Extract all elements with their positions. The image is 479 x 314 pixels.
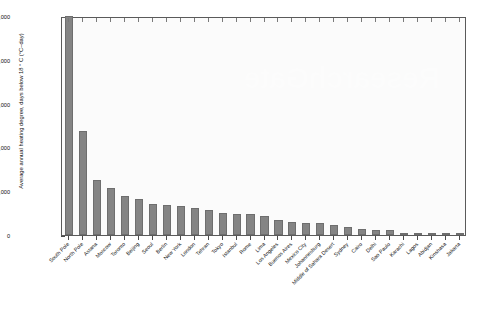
x-tick-mark-top bbox=[277, 18, 278, 22]
x-tick-mark bbox=[82, 236, 83, 240]
bar bbox=[274, 220, 282, 235]
bar bbox=[163, 205, 171, 235]
x-tick-mark bbox=[68, 236, 69, 240]
x-tick-mark-top bbox=[250, 18, 251, 22]
bar bbox=[260, 216, 268, 235]
x-tick-mark-top bbox=[138, 18, 139, 22]
x-tick-label: Jakarta bbox=[445, 241, 462, 258]
x-tick-mark-top bbox=[236, 18, 237, 22]
x-tick-mark-top bbox=[375, 18, 376, 22]
x-tick-mark bbox=[361, 236, 362, 240]
x-tick-mark bbox=[403, 236, 404, 240]
bar bbox=[330, 225, 338, 235]
x-tick-mark bbox=[291, 236, 292, 240]
x-tick-mark bbox=[375, 236, 376, 240]
bar bbox=[344, 227, 352, 235]
plot-area: ResearchGate bbox=[61, 17, 466, 236]
x-tick-label: Karachi bbox=[388, 241, 405, 258]
bar bbox=[316, 223, 324, 235]
y-tick-label: 5,000 bbox=[0, 189, 10, 195]
x-tick-mark-top bbox=[194, 18, 195, 22]
bar bbox=[191, 208, 199, 235]
x-tick-label: Rome bbox=[238, 241, 252, 255]
bar bbox=[65, 16, 73, 235]
bar-series bbox=[62, 18, 465, 235]
bar bbox=[442, 233, 450, 235]
x-tick-label: Seoul bbox=[140, 241, 154, 255]
x-tick-mark-top bbox=[124, 18, 125, 22]
x-tick-mark-top bbox=[264, 18, 265, 22]
y-tick-label: 0 bbox=[0, 233, 10, 239]
bar bbox=[205, 210, 213, 235]
x-tick-mark bbox=[194, 236, 195, 240]
x-tick-mark-top bbox=[459, 18, 460, 22]
x-tick-mark bbox=[305, 236, 306, 240]
y-tick-mark bbox=[61, 236, 65, 237]
chart-figure: Average annual heating degree, days belo… bbox=[0, 0, 479, 314]
x-tick-mark-top bbox=[319, 18, 320, 22]
bar bbox=[79, 131, 87, 235]
bar bbox=[177, 206, 185, 235]
y-axis-label: Average annual heating degree, days belo… bbox=[18, 0, 24, 226]
x-tick-mark-top bbox=[361, 18, 362, 22]
x-tick-mark-top bbox=[68, 18, 69, 22]
x-tick-label: Sydney bbox=[333, 241, 350, 258]
x-tick-mark bbox=[250, 236, 251, 240]
x-tick-mark-top bbox=[152, 18, 153, 22]
x-tick-mark-top bbox=[96, 18, 97, 22]
bar bbox=[428, 233, 436, 235]
x-tick-mark bbox=[222, 236, 223, 240]
x-tick-mark bbox=[138, 236, 139, 240]
x-tick-mark-top bbox=[431, 18, 432, 22]
bar bbox=[358, 229, 366, 235]
x-tick-label: Beijing bbox=[125, 241, 140, 256]
x-tick-mark-top bbox=[347, 18, 348, 22]
x-tick-mark-top bbox=[445, 18, 446, 22]
y-tick-label: 10,000 bbox=[0, 145, 10, 151]
bar bbox=[414, 233, 422, 235]
x-tick-mark bbox=[124, 236, 125, 240]
x-tick-mark-top bbox=[403, 18, 404, 22]
x-tick-label: London bbox=[179, 241, 196, 258]
x-tick-mark bbox=[389, 236, 390, 240]
x-tick-label: Toronto bbox=[109, 241, 126, 258]
x-tick-mark bbox=[277, 236, 278, 240]
bar bbox=[386, 230, 394, 235]
bar bbox=[135, 199, 143, 235]
x-tick-mark bbox=[445, 236, 446, 240]
bar bbox=[121, 196, 129, 235]
bar bbox=[219, 213, 227, 235]
x-tick-mark-top bbox=[166, 18, 167, 22]
x-tick-mark bbox=[333, 236, 334, 240]
x-tick-mark bbox=[180, 236, 181, 240]
x-tick-mark-top bbox=[333, 18, 334, 22]
x-tick-mark-top bbox=[417, 18, 418, 22]
x-tick-mark bbox=[347, 236, 348, 240]
x-tick-mark-top bbox=[180, 18, 181, 22]
x-tick-mark bbox=[431, 236, 432, 240]
x-tick-mark-top bbox=[222, 18, 223, 22]
y-tick-label: 15,000 bbox=[0, 102, 10, 108]
x-tick-label: Tehran bbox=[194, 241, 210, 257]
y-tick-label: 20,000 bbox=[0, 58, 10, 64]
x-tick-mark-top bbox=[305, 18, 306, 22]
x-tick-mark-top bbox=[82, 18, 83, 22]
bar bbox=[372, 230, 380, 235]
y-tick-label: 25,000 bbox=[0, 14, 10, 20]
bar bbox=[233, 214, 241, 235]
bar bbox=[149, 204, 157, 235]
bar bbox=[107, 188, 115, 235]
x-tick-mark bbox=[417, 236, 418, 240]
x-tick-mark bbox=[96, 236, 97, 240]
x-tick-mark-top bbox=[291, 18, 292, 22]
bar bbox=[400, 233, 408, 235]
bar bbox=[456, 233, 464, 235]
x-tick-mark bbox=[152, 236, 153, 240]
bar bbox=[246, 214, 254, 235]
x-tick-mark bbox=[459, 236, 460, 240]
x-tick-mark bbox=[110, 236, 111, 240]
x-tick-mark bbox=[319, 236, 320, 240]
x-tick-mark bbox=[236, 236, 237, 240]
x-tick-mark-top bbox=[110, 18, 111, 22]
x-tick-mark bbox=[208, 236, 209, 240]
